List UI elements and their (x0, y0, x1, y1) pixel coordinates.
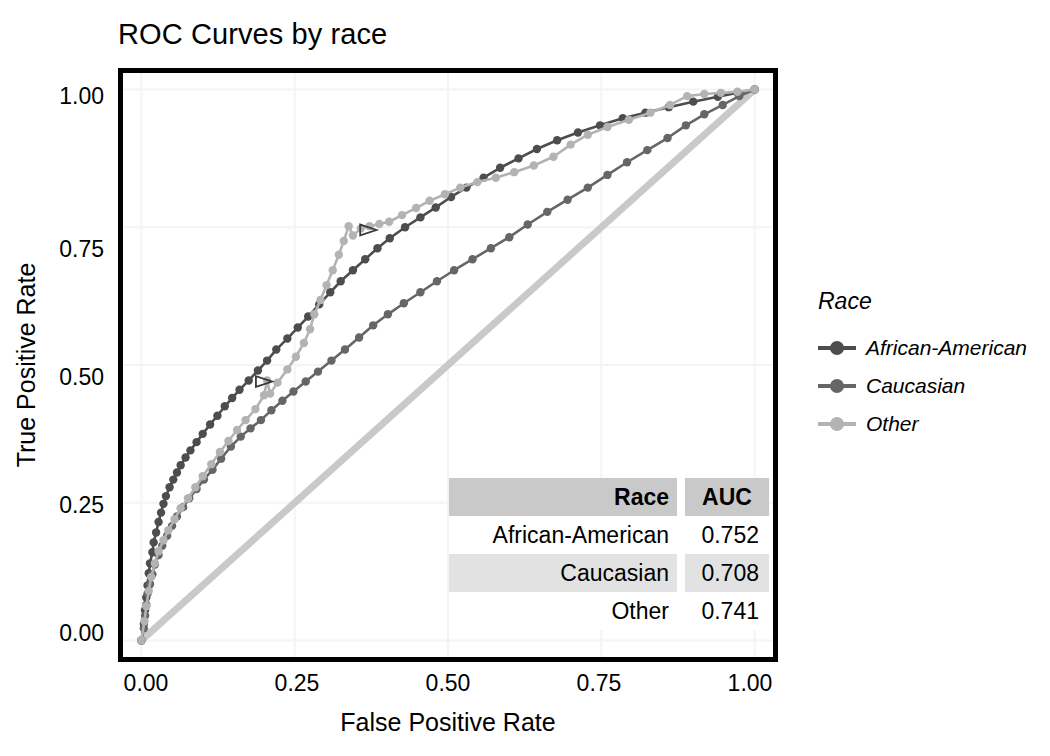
table-row: African-American0.752 (449, 516, 769, 554)
legend-key-dot (830, 417, 844, 431)
x-tick-1: 0.25 (275, 670, 320, 697)
legend-item-caucasian[interactable]: Caucasian (818, 367, 1038, 405)
y-tick-3: 0.75 (104, 236, 149, 263)
legend-item-label: African-American (866, 336, 1027, 360)
y-tick-1-label: 0.25 (59, 492, 104, 519)
auc-header-auc: AUC (685, 478, 769, 516)
y-tick-4-label: 1.00 (59, 83, 104, 110)
auc-cell-separator (677, 554, 685, 592)
y-tick-2-label: 0.50 (59, 364, 104, 391)
legend-items: African-AmericanCaucasianOther (818, 329, 1038, 443)
legend-item-other[interactable]: Other (818, 405, 1038, 443)
y-tick-0-label: 0.00 (59, 620, 104, 647)
y-tick-4: 1.00 (104, 83, 149, 110)
auc-table-header-row: Race AUC (449, 478, 769, 516)
auc-header-race: Race (449, 478, 677, 516)
auc-cell-separator (677, 516, 685, 554)
legend-item-label: Other (866, 412, 919, 436)
y-tick-0: 0.00 (104, 620, 149, 647)
table-row: Caucasian0.708 (449, 554, 769, 592)
auc-table-body: African-American0.752Caucasian0.708Other… (449, 516, 769, 630)
y-tick-2: 0.50 (104, 364, 149, 391)
legend-key-dot (830, 341, 844, 355)
auc-table-head: Race AUC (449, 478, 769, 516)
x-tick-2: 0.50 (426, 670, 471, 697)
auc-cell-separator (677, 592, 685, 630)
auc-table: Race AUC African-American0.752Caucasian0… (449, 478, 769, 630)
roc-chart-figure: ROC Curves by race 0.00 0.25 0.50 0.75 1… (0, 0, 1050, 756)
auc-cell-value: 0.708 (685, 554, 769, 592)
legend-title: Race (818, 288, 1038, 315)
x-tick-0: 0.00 (124, 670, 169, 697)
legend-key-dot (830, 379, 844, 393)
page-title: ROC Curves by race (118, 18, 387, 51)
auc-table-col-separator (677, 478, 685, 516)
auc-cell-race: Other (449, 592, 677, 630)
x-tick-4: 1.00 (728, 670, 773, 697)
line-dot-key-icon (818, 405, 856, 443)
y-tick-1: 0.25 (104, 492, 149, 519)
auc-cell-value: 0.741 (685, 592, 769, 630)
legend-item-label: Caucasian (866, 374, 965, 398)
x-tick-3: 0.75 (577, 670, 622, 697)
y-axis-title: True Positive Rate (12, 263, 41, 468)
auc-cell-value: 0.752 (685, 516, 769, 554)
legend: Race African-AmericanCaucasianOther (818, 288, 1038, 443)
y-tick-3-label: 0.75 (59, 236, 104, 263)
line-dot-key-icon (818, 367, 856, 405)
x-axis-title: False Positive Rate (340, 708, 555, 737)
line-dot-key-icon (818, 329, 856, 367)
legend-item-african-american[interactable]: African-American (818, 329, 1038, 367)
table-row: Other0.741 (449, 592, 769, 630)
auc-cell-race: Caucasian (449, 554, 677, 592)
auc-cell-race: African-American (449, 516, 677, 554)
